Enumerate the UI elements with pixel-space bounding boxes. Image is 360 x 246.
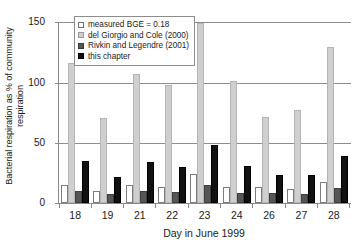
bar-rivkin-26 [269, 193, 276, 203]
x-axis-title: Day in June 1999 [58, 227, 350, 239]
x-tick-18 [59, 203, 60, 208]
bar-rivkin-18 [75, 191, 82, 203]
bar-measured-21 [126, 185, 133, 203]
bar-rivkin-19 [107, 194, 114, 203]
bar-measured-27 [287, 189, 294, 203]
legend-label-measured: measured BGE = 0.18 [88, 20, 169, 29]
bar-delgiorgio-24 [230, 81, 237, 203]
bar-chapter-27 [308, 175, 315, 203]
legend: measured BGE = 0.18del Giorgio and Cole … [74, 16, 195, 66]
bar-chapter-18 [82, 161, 89, 203]
bar-chapter-21 [147, 162, 154, 203]
bar-delgiorgio-22 [165, 85, 172, 203]
bar-chapter-28 [341, 156, 348, 204]
legend-item-delgiorgio: del Giorgio and Cole (2000) [78, 30, 189, 40]
bar-rivkin-24 [237, 193, 244, 203]
legend-swatch-delgiorgio [78, 32, 84, 38]
bar-measured-18 [61, 185, 68, 203]
legend-swatch-chapter [78, 53, 84, 59]
legend-swatch-rivkin [78, 43, 84, 49]
y-tick-label-150: 150 [5, 17, 45, 27]
legend-swatch-measured [78, 22, 84, 28]
bar-group-26 [253, 22, 285, 203]
bar-delgiorgio-23 [197, 23, 204, 203]
x-tick-label-28: 28 [318, 209, 350, 223]
x-tick-label-23: 23 [188, 209, 220, 223]
bar-delgiorgio-21 [133, 74, 140, 203]
x-tick-label-22: 22 [156, 209, 188, 223]
x-axis-tick-labels: 181921222324262728 [59, 209, 350, 223]
bar-group-27 [285, 22, 317, 203]
bar-measured-24 [223, 187, 230, 203]
bar-measured-26 [255, 187, 262, 203]
bar-rivkin-27 [301, 194, 308, 203]
bar-chapter-26 [276, 175, 283, 203]
y-tick-label-100: 100 [5, 78, 45, 88]
bar-chart-figure: Bacterial respiration as % of community … [0, 0, 360, 246]
bar-measured-19 [93, 191, 100, 203]
x-tick-26 [252, 203, 253, 208]
bar-chapter-19 [114, 177, 121, 203]
legend-label-rivkin: Rivkin and Legendre (2001) [88, 41, 189, 50]
x-tick-label-26: 26 [253, 209, 285, 223]
x-tick-27 [285, 203, 286, 208]
x-tick-label-21: 21 [124, 209, 156, 223]
bar-group-28 [318, 22, 350, 203]
legend-label-delgiorgio: del Giorgio and Cole (2000) [88, 31, 189, 40]
y-axis-title-container: Bacterial respiration as % of community … [0, 0, 30, 210]
bar-measured-22 [158, 187, 165, 203]
bar-delgiorgio-19 [100, 118, 107, 203]
bar-rivkin-21 [140, 191, 147, 203]
x-tick-label-27: 27 [285, 209, 317, 223]
y-tick-label-0: 0 [5, 198, 45, 208]
x-tick-19 [91, 203, 92, 208]
bar-rivkin-23 [204, 185, 211, 203]
legend-label-chapter: this chapter [88, 52, 130, 61]
bar-measured-28 [320, 182, 327, 203]
legend-item-measured: measured BGE = 0.18 [78, 20, 189, 30]
y-axis-title: Bacterial respiration as % of community … [4, 6, 26, 206]
x-tick-label-19: 19 [91, 209, 123, 223]
x-tick-24 [220, 203, 221, 208]
legend-item-rivkin: Rivkin and Legendre (2001) [78, 41, 189, 51]
x-tick-28 [317, 203, 318, 208]
x-tick-label-24: 24 [221, 209, 253, 223]
x-tick-22 [155, 203, 156, 208]
bar-measured-23 [190, 174, 197, 203]
bar-chapter-24 [244, 166, 251, 203]
bar-chapter-23 [211, 145, 218, 203]
bar-group-24 [221, 22, 253, 203]
y-tick-label-50: 50 [5, 138, 45, 148]
bar-delgiorgio-27 [294, 110, 301, 203]
legend-item-chapter: this chapter [78, 51, 189, 61]
x-tick-21 [123, 203, 124, 208]
x-tick-end [349, 203, 350, 208]
bar-delgiorgio-28 [327, 47, 334, 203]
bar-rivkin-28 [334, 188, 341, 203]
bar-delgiorgio-26 [262, 117, 269, 203]
x-tick-23 [188, 203, 189, 208]
x-tick-label-18: 18 [59, 209, 91, 223]
bar-chapter-22 [179, 167, 186, 203]
bar-rivkin-22 [172, 192, 179, 203]
bar-delgiorgio-18 [68, 63, 75, 203]
